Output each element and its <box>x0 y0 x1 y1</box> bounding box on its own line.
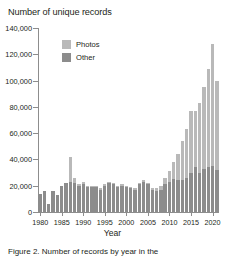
bar-segment-other <box>146 184 149 212</box>
bar-segment-other <box>159 190 162 212</box>
bar-segment-photos <box>185 129 188 178</box>
bar <box>107 28 110 212</box>
bar <box>129 28 132 212</box>
y-tick-label: 60,000 <box>0 129 32 138</box>
bar <box>202 28 205 212</box>
bar-segment-photos <box>194 111 197 168</box>
bar-segment-other <box>155 191 158 212</box>
bar-segment-other <box>129 188 132 212</box>
bar-segment-other <box>116 187 119 212</box>
bar <box>207 28 210 212</box>
bar <box>163 28 166 212</box>
x-tick <box>126 212 127 216</box>
bar <box>103 28 106 212</box>
bar <box>38 28 41 212</box>
bar-segment-photos <box>181 141 184 180</box>
bar-segment-other <box>56 195 59 212</box>
bar <box>146 28 149 212</box>
x-tick-label: 2010 <box>161 218 177 227</box>
bar-segment-other <box>69 182 72 212</box>
bar-segment-photos <box>198 103 201 173</box>
x-tick-label: 2020 <box>205 218 221 227</box>
bar <box>189 28 192 212</box>
bar-segment-other <box>86 187 89 212</box>
bar-segment-other <box>120 186 123 212</box>
bar-segment-other <box>211 166 214 212</box>
y-tick-label: 20,000 <box>0 181 32 190</box>
bar <box>155 28 158 212</box>
bar-segment-other <box>60 186 63 212</box>
bar <box>112 28 115 212</box>
x-tick-label: 2005 <box>140 218 156 227</box>
bar-segment-other <box>51 191 54 212</box>
bar-segment-other <box>207 167 210 212</box>
bar-segment-other <box>112 184 115 212</box>
bar-segment-other <box>176 180 179 212</box>
bar <box>159 28 162 212</box>
x-tick <box>169 212 170 216</box>
bar-segment-other <box>181 180 184 212</box>
x-axis-title: Year <box>0 228 225 238</box>
bar <box>51 28 54 212</box>
bar-segment-other <box>90 187 93 212</box>
x-tick-label: 2015 <box>183 218 199 227</box>
x-tick <box>83 212 84 216</box>
x-tick-label: 1995 <box>97 218 113 227</box>
x-tick <box>105 212 106 216</box>
x-tick <box>62 212 63 216</box>
chart-title: Number of unique records <box>8 7 112 17</box>
bar <box>47 28 50 212</box>
x-tick-label: 1990 <box>75 218 91 227</box>
bar <box>133 28 136 212</box>
y-tick-label: 80,000 <box>0 102 32 111</box>
bar-segment-other <box>151 190 154 212</box>
bar <box>194 28 197 212</box>
bar-segment-other <box>107 183 110 212</box>
bar-segment-other <box>168 182 171 212</box>
bar-segment-photos <box>69 157 72 182</box>
bar-segment-photos <box>176 154 179 180</box>
bar <box>138 28 141 212</box>
bar-segment-other <box>202 169 205 212</box>
bar-segment-other <box>73 183 76 212</box>
y-tick-label: 40,000 <box>0 155 32 164</box>
y-tick-label: 0 <box>0 208 32 217</box>
bar-segment-other <box>64 183 67 212</box>
x-tick-label: 2000 <box>118 218 134 227</box>
bar-segment-other <box>47 204 50 212</box>
x-tick <box>40 212 41 216</box>
bar-segment-other <box>189 173 192 212</box>
bar <box>120 28 123 212</box>
y-tick-label: 120,000 <box>0 50 32 59</box>
bar <box>142 28 145 212</box>
x-tick-label: 1985 <box>54 218 70 227</box>
bar <box>43 28 46 212</box>
bar-segment-other <box>103 186 106 212</box>
bar-segment-photos <box>207 69 210 168</box>
bar-segment-photos <box>202 87 205 168</box>
bar <box>56 28 59 212</box>
legend-item-other: Other <box>62 53 100 62</box>
bar-segment-other <box>138 184 141 212</box>
bar-segment-photos <box>215 81 218 170</box>
bar-segment-photos <box>168 171 171 182</box>
bar-segment-other <box>198 173 201 212</box>
x-tick <box>213 212 214 216</box>
bar-segment-other <box>133 190 136 212</box>
bar-segment-photos <box>172 162 175 179</box>
bar <box>151 28 154 212</box>
chart-legend: Photos Other <box>62 40 100 66</box>
bar-segment-other <box>99 190 102 212</box>
y-tick-label: 100,000 <box>0 76 32 85</box>
bar-segment-other <box>43 191 46 212</box>
bar-segment-other <box>77 186 80 212</box>
bar-segment-other <box>194 167 197 212</box>
legend-swatch-photos <box>62 40 71 49</box>
bar <box>172 28 175 212</box>
bar-segment-other <box>215 170 218 212</box>
bar-segment-other <box>94 187 97 212</box>
x-tick <box>191 212 192 216</box>
bar <box>116 28 119 212</box>
y-tick <box>33 212 38 213</box>
legend-item-photos: Photos <box>62 40 100 49</box>
